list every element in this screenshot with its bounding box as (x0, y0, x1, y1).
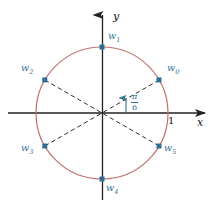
root-point-w1 (100, 45, 105, 50)
root-label-w0: w0 (167, 63, 179, 75)
root-point-w2 (42, 77, 47, 82)
root-label-w2: w2 (21, 63, 33, 75)
root-point-w0 (157, 77, 162, 82)
angle-denominator: 6 (131, 104, 138, 113)
unit-circle-figure: w0 w1 w2 w3 w4 w5 y x 1 π 6 (0, 0, 219, 209)
y-axis-label: y (113, 11, 119, 22)
root-label-w1: w1 (108, 31, 120, 43)
root-label-w3: w3 (21, 143, 33, 155)
angle-numerator: π (131, 93, 138, 102)
root-point-w5 (157, 144, 162, 149)
root-label-w4: w4 (106, 183, 118, 195)
unit-tick-label: 1 (168, 116, 174, 126)
x-axis-label: x (197, 117, 203, 128)
root-point-w3 (42, 144, 47, 149)
angle-label-pi-over-6: π 6 (131, 93, 138, 112)
root-point-w4 (100, 177, 105, 182)
root-label-w5: w5 (164, 143, 176, 155)
